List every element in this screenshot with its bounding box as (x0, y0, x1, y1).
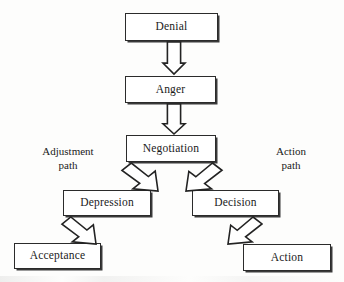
arrow-depression-to-acceptance-icon (62, 217, 96, 244)
node-negotiation-label: Negotiation (143, 143, 200, 155)
node-anger-label: Anger (156, 84, 186, 96)
node-anger[interactable]: Anger (125, 76, 216, 103)
arrow-anger-to-negotiation-icon (163, 104, 185, 134)
arrow-decision-to-action-icon (228, 217, 262, 244)
node-action[interactable]: Action (243, 244, 331, 271)
diagram-canvas: Denial Anger Negotiation Depression Deci… (0, 0, 344, 282)
node-negotiation[interactable]: Negotiation (126, 135, 216, 162)
node-decision[interactable]: Decision (192, 190, 279, 216)
node-depression[interactable]: Depression (63, 190, 151, 216)
node-acceptance[interactable]: Acceptance (14, 243, 101, 269)
node-denial-label: Denial (156, 21, 188, 33)
label-action-path: Action path (250, 145, 332, 173)
node-acceptance-label: Acceptance (30, 250, 86, 262)
node-action-label: Action (271, 252, 304, 264)
arrow-negotiation-to-decision-icon (186, 163, 222, 191)
arrow-negotiation-to-depression-icon (122, 163, 158, 191)
label-adjustment-path: Adjustment path (22, 145, 114, 173)
node-decision-label: Decision (214, 197, 256, 209)
node-denial[interactable]: Denial (125, 13, 218, 41)
scan-edge-artifact (0, 276, 344, 282)
node-depression-label: Depression (80, 197, 134, 209)
arrow-denial-to-anger-icon (163, 42, 185, 74)
